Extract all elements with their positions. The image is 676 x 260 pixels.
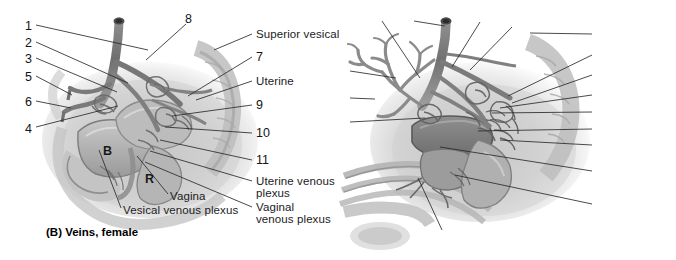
callout-number-2-female: 2: [25, 37, 32, 50]
panel-caption-female: (B) Veins, female: [46, 226, 138, 238]
callout-number-11-female: 11: [256, 154, 269, 167]
callout-number-8-female: 8: [185, 13, 192, 26]
panel-veins-female: 1 2 3 5 6 4 8 Superior vesical 7 Uterine…: [0, 0, 338, 260]
label-superior-vesical-female: Superior vesical: [256, 28, 339, 41]
callout-number-9-female: 9: [256, 99, 263, 112]
label-uterine-female: Uterine: [256, 75, 294, 88]
callout-number-4-female: 4: [25, 123, 32, 136]
organ-marker-bladder-female: B: [103, 144, 112, 158]
callout-number-5-female: 5: [25, 71, 32, 84]
label-vagina: Vagina: [170, 190, 206, 203]
callout-number-7-female: 7: [256, 51, 263, 64]
anatomy-figure: 1 2 3 5 6 4 8 Superior vesical 7 Uterine…: [0, 0, 676, 260]
label-uterine-venous-plexus-line2: plexus: [256, 187, 290, 200]
callout-number-3-female: 3: [25, 53, 32, 66]
label-vaginal-venous-plexus-line2: venous plexus: [256, 213, 331, 226]
organ-marker-rectum-female: R: [145, 172, 154, 186]
label-vaginal-venous-plexus-line1: Vaginal: [256, 201, 294, 214]
male-pelvis-illustration: [338, 0, 676, 260]
callout-number-1-female: 1: [25, 20, 32, 33]
label-uterine-venous-plexus-line1: Uterine venous: [256, 175, 335, 188]
callout-number-10-female: 10: [256, 127, 270, 140]
callout-number-6-female: 6: [25, 96, 32, 109]
panel-veins-male: 3 1 2 8 5 6 4 Superior vesical 7 Inferio…: [338, 0, 676, 260]
label-vesical-venous-plexus-female: Vesical venous plexus: [123, 204, 238, 217]
